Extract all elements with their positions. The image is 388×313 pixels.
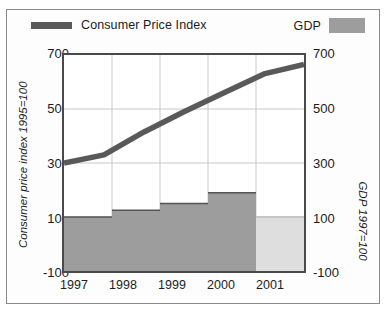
legend-swatch-box-icon [329, 18, 365, 33]
y-tick-right-1: 500 [313, 102, 353, 115]
chart-svg [64, 55, 304, 271]
chart-legend: Consumer Price Index GDP [7, 10, 379, 42]
x-tick-2: 1999 [144, 278, 200, 292]
x-tick-4: 2001 [242, 278, 298, 292]
chart-plot-area [62, 53, 306, 273]
y-tick-right-2: 300 [313, 157, 353, 170]
legend-swatch-line-icon [31, 22, 72, 29]
x-tick-1: 1998 [95, 278, 151, 292]
y-tick-right-3: 100 [313, 212, 353, 225]
x-tick-3: 2000 [193, 278, 249, 292]
legend-label-gdp: GDP [294, 19, 321, 33]
legend-item-cpi: Consumer Price Index [31, 18, 207, 32]
y-tick-right-0: 700 [313, 47, 353, 60]
gdp-bar-1997 [64, 217, 112, 271]
x-tick-0: 1997 [46, 278, 102, 292]
y-axis-title-right: GDP 1997=100 [357, 155, 369, 287]
legend-item-gdp: GDP [294, 18, 365, 33]
chart-figure: Consumer Price Index GDP Consumer price … [6, 9, 380, 304]
legend-label-cpi: Consumer Price Index [81, 18, 207, 32]
cpi-line [64, 64, 304, 163]
gdp-bar-2000 [208, 193, 256, 271]
gdp-bar-1999 [160, 204, 208, 272]
gdp-bar-1998 [112, 210, 160, 271]
y-axis-title-left: Consumer price index 1995=100 [17, 88, 29, 248]
y-tick-right-4: -100 [313, 266, 353, 279]
gdp-bar-2001 [256, 217, 304, 271]
